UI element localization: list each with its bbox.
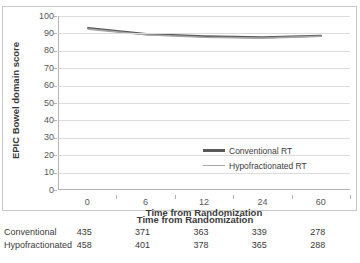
y-tick-mark	[54, 138, 57, 139]
table-row: Hypofractionated458401378365288	[0, 239, 360, 251]
table-row: Conventional435371363339278	[0, 226, 360, 238]
y-tick-mark	[54, 173, 57, 174]
y-tick-label: 100	[8, 12, 54, 21]
gridline	[59, 16, 350, 17]
at-risk-rows: Conventional435371363339278Hypofractiona…	[0, 226, 360, 251]
table-cell: 365	[230, 239, 288, 251]
y-tick-mark	[54, 86, 57, 87]
y-tick-mark	[54, 16, 57, 17]
gridline	[59, 86, 350, 87]
y-tick-mark	[54, 155, 57, 156]
y-tick-label: 70	[8, 64, 54, 73]
table-cell: 458	[55, 239, 113, 251]
y-tick-mark	[54, 51, 57, 52]
y-tick-label: 60	[8, 81, 54, 90]
gridline	[59, 68, 350, 69]
y-tick-label: 90	[8, 29, 54, 38]
gridline	[59, 120, 350, 121]
table-cell: 371	[113, 226, 171, 238]
y-tick-label: 20	[8, 151, 54, 160]
gridline	[59, 33, 350, 34]
y-tick-mark	[54, 190, 57, 191]
legend: Conventional RTHypofractionated RT	[203, 143, 353, 173]
table-cell: 378	[172, 239, 230, 251]
table-cell: 401	[113, 239, 171, 251]
x-tick-label: 0	[58, 197, 116, 207]
table-cell: 435	[55, 226, 113, 238]
y-tick-label: 30	[8, 133, 54, 142]
x-tick-label: 60	[292, 197, 350, 207]
legend-item[interactable]: Conventional RT	[203, 143, 353, 158]
x-tick-label: 12	[175, 197, 233, 207]
x-tick-label: 24	[233, 197, 291, 207]
gridline	[59, 51, 350, 52]
x-tick-label: 6	[116, 197, 174, 207]
y-tick-label: 10	[8, 168, 54, 177]
y-tick-label: 50	[8, 99, 54, 108]
y-axis-tick-labels: 0102030405060708090100	[3, 16, 54, 190]
y-tick-label: 80	[8, 46, 54, 55]
legend-line-icon	[203, 165, 225, 167]
y-tick-mark	[54, 120, 57, 121]
legend-line-icon	[203, 149, 225, 151]
at-risk-table: Time from Randomization Conventional4353…	[0, 214, 360, 251]
y-tick-mark	[54, 103, 57, 104]
x-tick-mark	[350, 195, 351, 199]
y-tick-mark	[54, 68, 57, 69]
y-tick-mark	[54, 33, 57, 34]
figure-container: EPIC Bowel domain score 0102030405060708…	[0, 0, 360, 263]
legend-item[interactable]: Hypofractionated RT	[203, 158, 353, 173]
gridline	[59, 138, 350, 139]
table-row-label: Conventional	[4, 226, 57, 238]
table-cell: 363	[172, 226, 230, 238]
chart-frame: EPIC Bowel domain score 0102030405060708…	[2, 6, 357, 211]
legend-label: Conventional RT	[229, 146, 292, 156]
legend-label: Hypofractionated RT	[229, 161, 307, 171]
table-cell: 288	[289, 239, 347, 251]
at-risk-table-title: Time from Randomization	[30, 214, 360, 225]
gridline	[59, 103, 350, 104]
table-cell: 339	[230, 226, 288, 238]
y-tick-label: 40	[8, 116, 54, 125]
table-cell: 278	[289, 226, 347, 238]
y-tick-label: 0	[8, 186, 54, 195]
